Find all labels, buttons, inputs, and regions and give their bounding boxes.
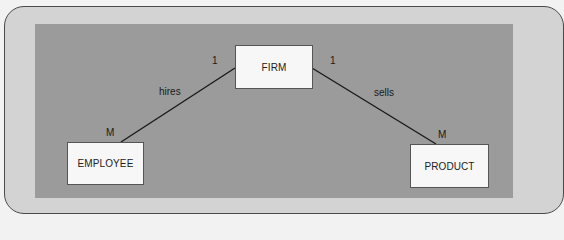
sells-product-cardinality: M <box>438 130 446 140</box>
entity-employee: EMPLOYEE <box>67 142 144 185</box>
entity-firm-label: FIRM <box>262 62 287 73</box>
entity-employee-label: EMPLOYEE <box>78 158 134 169</box>
entity-product: PRODUCT <box>410 144 489 188</box>
entity-product-label: PRODUCT <box>424 161 474 172</box>
sells-relationship-label: sells <box>374 88 394 98</box>
hires-firm-cardinality: 1 <box>212 56 218 66</box>
sells-firm-cardinality: 1 <box>330 56 336 66</box>
hires-employee-cardinality: M <box>106 128 114 138</box>
hires-relationship-label: hires <box>159 87 181 97</box>
entity-firm: FIRM <box>235 45 313 89</box>
